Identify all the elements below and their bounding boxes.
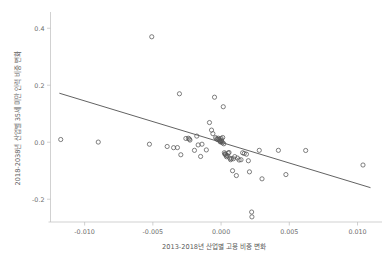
x-tick-label: -0.005 — [143, 228, 164, 236]
x-tick-label: -0.010 — [74, 228, 95, 236]
scatter-point — [150, 35, 154, 39]
scatter-point — [284, 172, 288, 176]
scatter-point — [260, 177, 264, 181]
scatter-point — [59, 137, 63, 141]
scatter-point — [246, 159, 250, 163]
scatter-points-group — [59, 35, 365, 219]
scatter-point — [199, 154, 203, 158]
y-tick-label: -0.2 — [32, 196, 44, 204]
y-tick-label: 0.4 — [34, 25, 44, 33]
scatter-point — [211, 132, 215, 136]
x-tick-label: 0.000 — [212, 228, 230, 236]
scatter-point — [221, 105, 225, 109]
scatter-point — [304, 148, 308, 152]
y-tick-label: 0.0 — [34, 139, 44, 147]
scatter-point — [257, 148, 261, 152]
scatter-point — [250, 215, 254, 219]
scatter-point — [179, 153, 183, 157]
scatter-point — [247, 170, 251, 174]
x-tick-label: 0.010 — [348, 228, 366, 236]
scatter-point — [165, 144, 169, 148]
plot-area: -0.20.00.20.4-0.010-0.0050.0000.0050.010… — [0, 0, 390, 266]
scatter-point — [230, 169, 234, 173]
scatter-point — [207, 120, 211, 124]
scatter-point — [147, 142, 151, 146]
scatter-point — [96, 140, 100, 144]
scatter-chart: -0.20.00.20.4-0.010-0.0050.0000.0050.010… — [0, 0, 390, 266]
scatter-point — [192, 148, 196, 152]
scatter-point — [276, 148, 280, 152]
scatter-point — [212, 95, 216, 99]
scatter-point — [177, 92, 181, 96]
x-axis-title: 2013-2018년 산업별 고용 비중 변화 — [162, 242, 266, 251]
scatter-point — [234, 173, 238, 177]
scatter-point — [361, 163, 365, 167]
scatter-point — [204, 148, 208, 152]
trend-line — [59, 93, 370, 187]
scatter-point — [250, 210, 254, 214]
x-tick-label: 0.005 — [280, 228, 298, 236]
y-tick-label: 0.2 — [34, 82, 44, 90]
y-axis-title: 2018-2038년 산업별 35세 미만 인력 비중 변화 — [13, 51, 22, 186]
